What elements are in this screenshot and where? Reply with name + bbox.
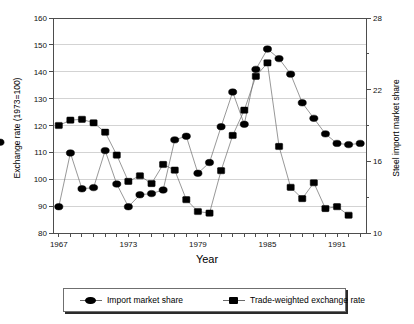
data-point [159, 187, 167, 193]
data-point [160, 161, 167, 167]
data-point [241, 107, 248, 113]
dual-axis-line-chart: 19671973197919851991 8090100110120130140… [0, 0, 414, 324]
svg-text:100: 100 [34, 175, 48, 184]
data-point [113, 181, 121, 187]
data-point [252, 73, 259, 79]
data-point [55, 122, 62, 128]
data-point [67, 117, 74, 123]
data-point [345, 212, 352, 218]
legend-item-import-market-share: Import market share [80, 295, 183, 305]
data-point [206, 210, 213, 216]
data-point [322, 205, 329, 211]
chart-legend: Import market share Trade-weighted excha… [63, 288, 346, 312]
chart-figure: 19671973197919851991 8090100110120130140… [0, 0, 414, 324]
svg-text:80: 80 [38, 229, 47, 238]
svg-text:16: 16 [373, 157, 382, 166]
y-axis-right-tick-labels: 10162228 [373, 14, 382, 238]
y-axis-left-ticks [49, 18, 53, 233]
x-axis-tick-labels: 19671973197919851991 [50, 240, 347, 249]
data-point [310, 115, 318, 121]
data-point [264, 60, 271, 66]
data-point [310, 180, 317, 186]
y-axis-left-title: Exchange rate (1973=100) [12, 77, 22, 178]
data-point [55, 204, 63, 210]
x-axis-ticks [59, 233, 360, 237]
legend-item-trade-weighted-exchange-rate: Trade-weighted exchange rate [223, 295, 365, 305]
data-point [124, 204, 132, 210]
data-point [229, 89, 237, 95]
data-point [125, 178, 132, 184]
svg-text:1985: 1985 [259, 240, 277, 249]
data-point [66, 150, 74, 156]
svg-text:1973: 1973 [119, 240, 137, 249]
data-point [205, 159, 213, 165]
data-point [252, 66, 260, 72]
data-point [136, 192, 144, 198]
svg-text:10: 10 [373, 229, 382, 238]
data-point [298, 100, 306, 106]
y-axis-right-title: Steel import market share [391, 79, 401, 177]
data-point [333, 204, 340, 210]
data-point [287, 184, 294, 190]
x-axis-title: Year [196, 253, 219, 265]
circle-marker-icon [80, 295, 102, 305]
data-point [275, 143, 282, 149]
svg-text:120: 120 [34, 122, 48, 131]
data-point [182, 133, 190, 139]
data-point [287, 71, 295, 77]
svg-text:1991: 1991 [328, 240, 346, 249]
data-point [345, 141, 353, 147]
svg-text:160: 160 [34, 14, 48, 23]
data-point [194, 208, 201, 214]
svg-text:150: 150 [34, 41, 48, 50]
square-marker-icon [223, 295, 245, 305]
svg-text:130: 130 [34, 95, 48, 104]
data-point [113, 152, 120, 158]
data-point [229, 132, 236, 138]
data-point [78, 186, 86, 192]
data-point [102, 129, 109, 135]
series-line-1 [59, 63, 349, 215]
data-point [194, 170, 202, 176]
legend-label-trade-weighted-exchange-rate: Trade-weighted exchange rate [250, 295, 365, 305]
svg-text:110: 110 [34, 148, 47, 157]
data-point [101, 147, 109, 153]
y-axis-right-ticks [366, 18, 371, 233]
svg-text:90: 90 [38, 202, 47, 211]
data-point [89, 184, 97, 190]
data-point [217, 123, 225, 129]
data-point [217, 168, 224, 174]
data-point [333, 140, 341, 146]
data-point [263, 46, 271, 52]
data-point [321, 131, 329, 137]
data-point [356, 140, 364, 146]
data-point [90, 120, 97, 126]
data-point [183, 197, 190, 203]
legend-label-import-market-share: Import market share [107, 295, 183, 305]
data-point [240, 121, 248, 127]
data-point [171, 167, 178, 173]
svg-text:1967: 1967 [50, 240, 68, 249]
data-point [147, 190, 155, 196]
data-point [148, 180, 155, 186]
svg-text:1979: 1979 [189, 240, 207, 249]
data-point [299, 196, 306, 202]
data-point [171, 137, 179, 143]
data-point [78, 116, 85, 122]
y-axis-left-tick-labels: 8090100110120130140150160 [34, 14, 48, 238]
svg-text:28: 28 [373, 14, 382, 23]
svg-text:22: 22 [373, 86, 382, 95]
svg-text:140: 140 [34, 68, 48, 77]
data-point [136, 173, 143, 179]
data-point [275, 55, 283, 61]
data-point [0, 139, 4, 145]
